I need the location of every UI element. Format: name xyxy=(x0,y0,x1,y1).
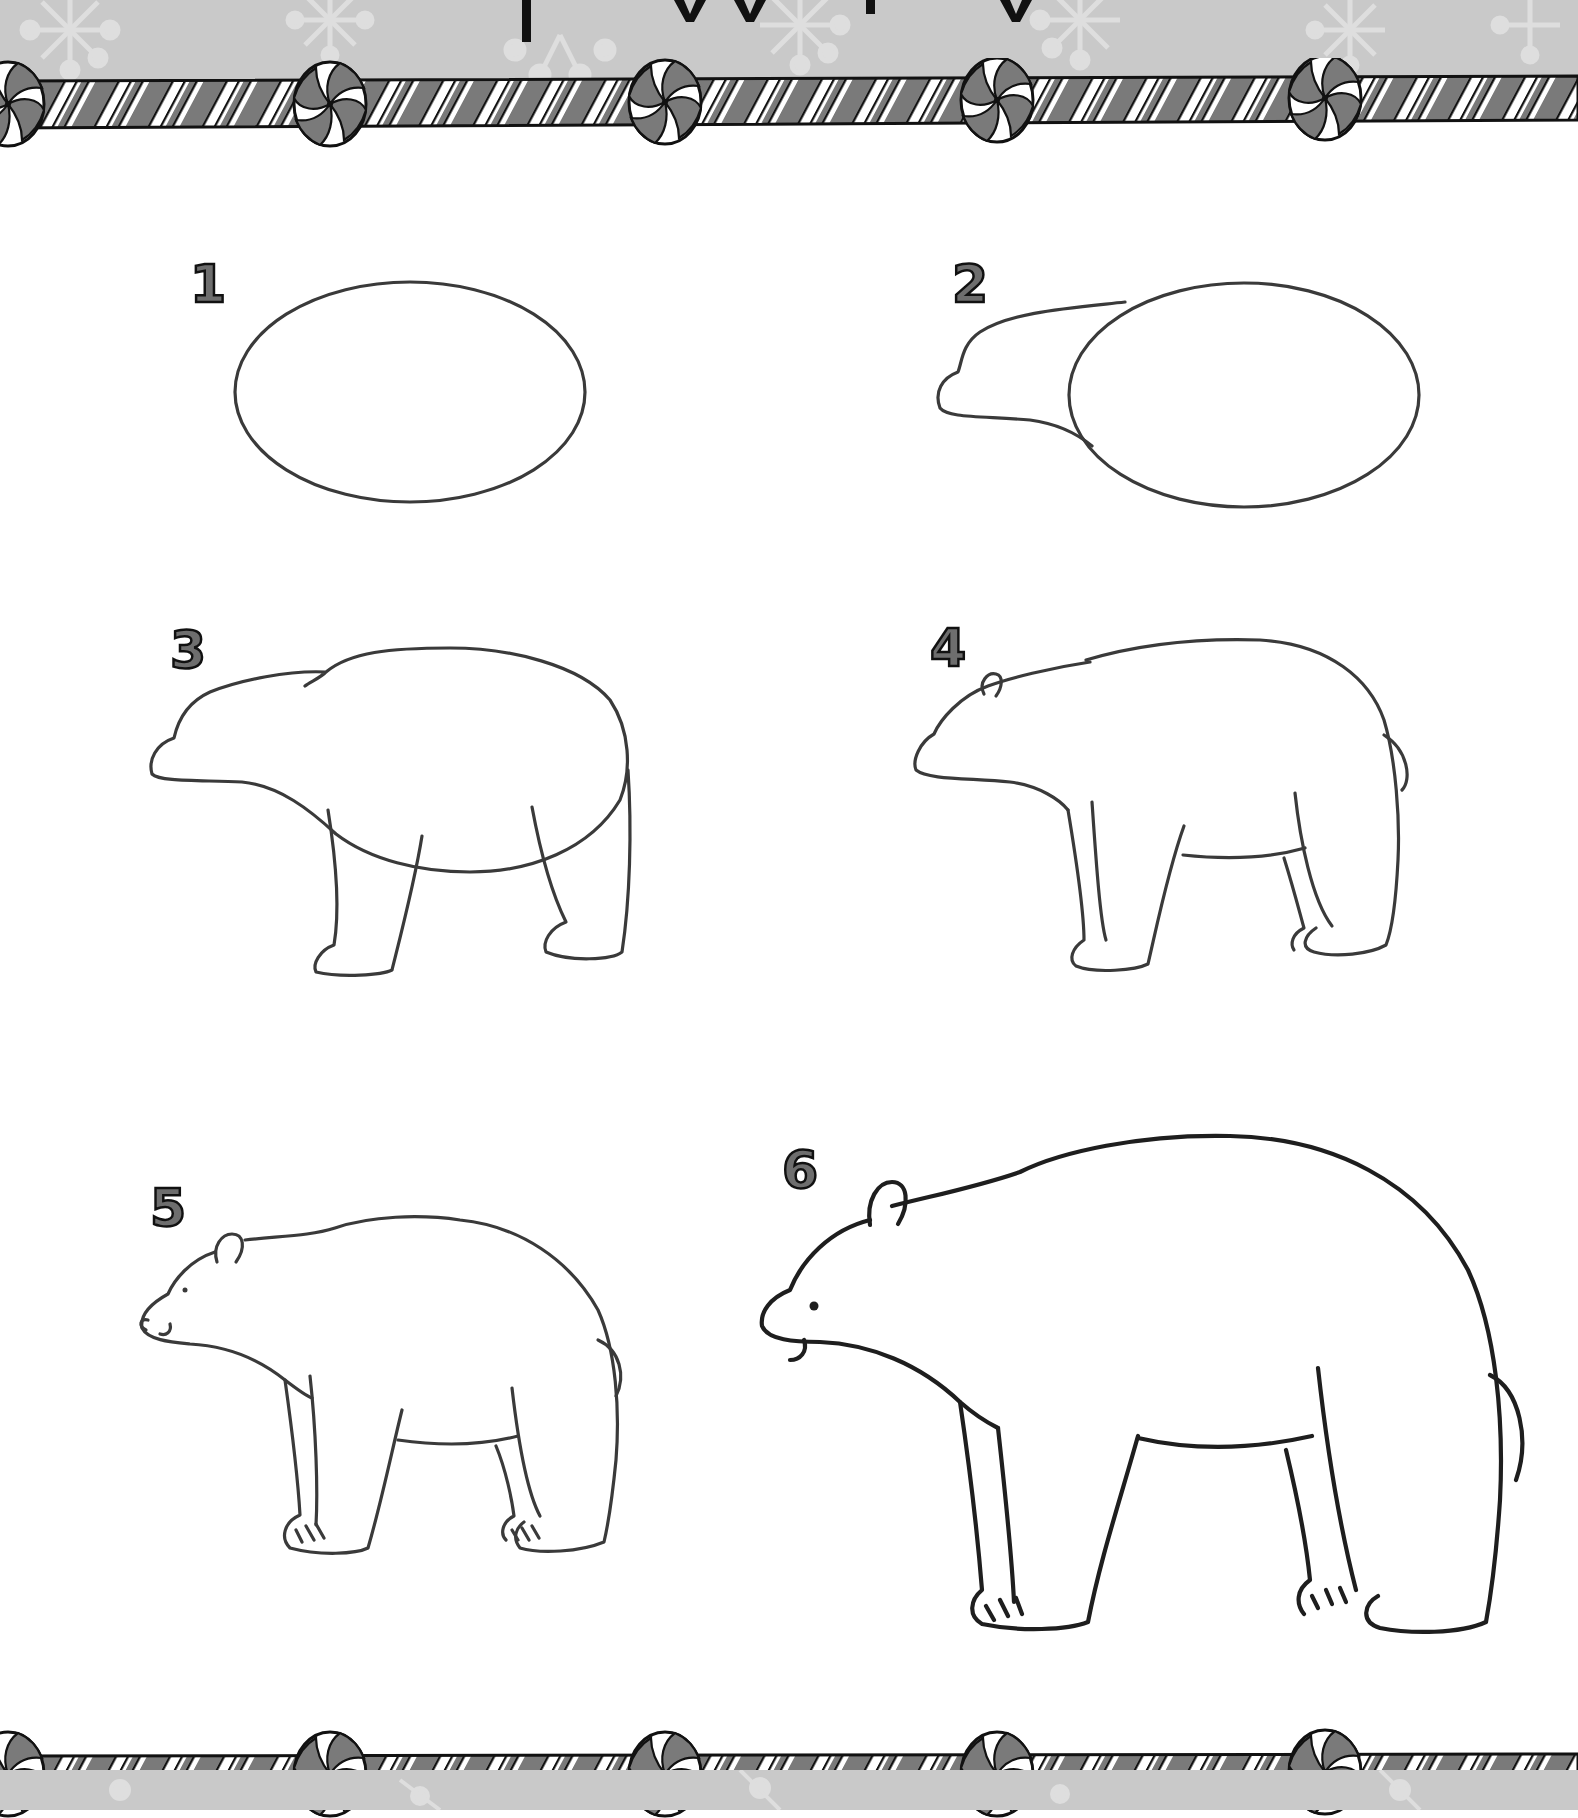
snowflake-pattern xyxy=(0,1770,1578,1810)
peppermint-icon xyxy=(0,62,44,146)
step-1: 1 xyxy=(150,240,600,520)
peppermint-icon xyxy=(294,62,366,146)
step-1-sketch xyxy=(150,240,600,520)
step-3: 3 xyxy=(130,610,650,990)
step-5: 5 xyxy=(120,1170,660,1570)
fur-shading xyxy=(753,1139,1507,1630)
step-3-sketch xyxy=(130,610,650,990)
step-4-sketch xyxy=(900,610,1420,990)
step-6: 6 xyxy=(720,1120,1540,1680)
peppermint-icon xyxy=(1289,58,1361,140)
step-5-sketch xyxy=(120,1170,660,1570)
candy-cane-border-top xyxy=(0,58,1578,148)
page-title-cropped xyxy=(0,0,1578,50)
peppermint-icon xyxy=(961,58,1033,142)
bottom-snowflake-band xyxy=(0,1770,1578,1810)
peppermint-icon xyxy=(629,60,701,144)
step-4: 4 xyxy=(900,610,1420,990)
step-6-sketch xyxy=(720,1120,1540,1680)
step-2: 2 xyxy=(920,250,1440,520)
step-2-sketch xyxy=(920,250,1440,520)
